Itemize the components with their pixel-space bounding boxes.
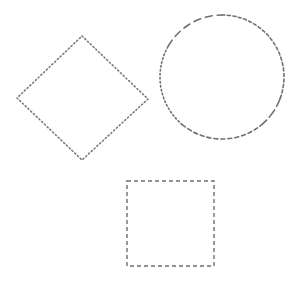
square-shape <box>127 181 214 266</box>
circle-shape <box>160 15 284 139</box>
diagram-canvas <box>0 0 297 284</box>
diamond-shape <box>17 36 148 160</box>
